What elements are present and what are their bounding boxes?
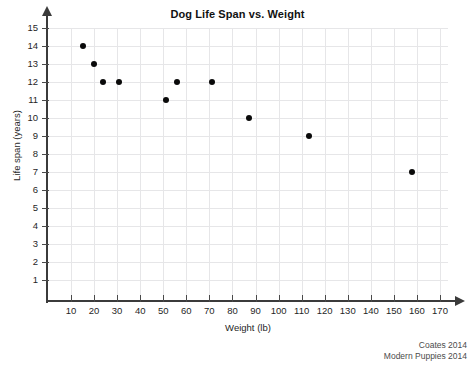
y-tick-mark	[42, 64, 49, 65]
y-tick-mark	[42, 172, 49, 173]
credit-line-2: Modern Puppies 2014	[384, 351, 467, 362]
chart-title: Dog Life Span vs. Weight	[0, 8, 475, 20]
data-point	[209, 79, 215, 85]
gridline-horizontal	[48, 136, 448, 137]
gridline-horizontal	[48, 154, 448, 155]
y-tick-mark	[42, 118, 49, 119]
gridline-vertical	[394, 28, 395, 301]
y-axis-arrow-icon	[42, 6, 52, 16]
x-tick-mark	[394, 295, 395, 302]
x-tick-label: 170	[425, 305, 455, 316]
data-point	[246, 115, 252, 121]
gridline-vertical	[279, 28, 280, 301]
gridline-horizontal	[48, 280, 448, 281]
x-tick-mark	[232, 295, 233, 302]
gridline-vertical	[325, 28, 326, 301]
y-tick-label: 15	[14, 22, 38, 33]
gridline-vertical	[371, 28, 372, 301]
gridline-vertical	[94, 28, 95, 301]
x-tick-mark	[417, 295, 418, 302]
gridline-horizontal	[48, 226, 448, 227]
credits-block: Coates 2014 Modern Puppies 2014	[384, 340, 467, 362]
gridline-horizontal	[48, 64, 448, 65]
data-point	[163, 97, 169, 103]
y-tick-label: 3	[14, 238, 38, 249]
y-tick-label: 14	[14, 40, 38, 51]
gridline-vertical	[232, 28, 233, 301]
x-tick-mark	[302, 295, 303, 302]
x-tick-mark	[279, 295, 280, 302]
y-tick-mark	[42, 280, 49, 281]
x-tick-mark	[186, 295, 187, 302]
clipped-header-remnant: · · ·· · ·	[104, 0, 384, 4]
x-axis-line	[46, 300, 457, 302]
y-tick-mark	[42, 154, 49, 155]
plot-area	[48, 28, 448, 301]
gridline-horizontal	[48, 28, 448, 29]
y-tick-mark	[42, 46, 49, 47]
gridline-vertical	[256, 28, 257, 301]
y-tick-mark	[42, 190, 49, 191]
x-tick-mark	[371, 295, 372, 302]
gridline-horizontal	[48, 208, 448, 209]
y-tick-mark	[42, 28, 49, 29]
x-tick-mark	[325, 295, 326, 302]
x-tick-mark	[440, 295, 441, 302]
y-tick-label: 13	[14, 58, 38, 69]
x-axis-title: Weight (lb)	[48, 322, 448, 333]
x-tick-mark	[256, 295, 257, 302]
gridline-vertical	[209, 28, 210, 301]
x-tick-mark	[94, 295, 95, 302]
data-point	[306, 133, 312, 139]
gridline-vertical	[302, 28, 303, 301]
x-tick-mark	[140, 295, 141, 302]
x-axis-arrow-icon	[455, 296, 465, 306]
gridline-vertical	[440, 28, 441, 301]
scatter-plot-figure: · · ·· · · Dog Life Span vs. Weight 1234…	[0, 0, 475, 370]
y-axis-line	[46, 14, 48, 303]
gridline-horizontal	[48, 190, 448, 191]
gridline-vertical	[417, 28, 418, 301]
gridlines	[48, 28, 448, 301]
x-tick-mark	[71, 295, 72, 302]
gridline-horizontal	[48, 100, 448, 101]
y-tick-mark	[42, 136, 49, 137]
gridline-horizontal	[48, 172, 448, 173]
x-tick-mark	[209, 295, 210, 302]
data-point	[80, 43, 86, 49]
gridline-vertical	[71, 28, 72, 301]
gridline-vertical	[117, 28, 118, 301]
gridline-horizontal	[48, 262, 448, 263]
gridline-horizontal	[48, 244, 448, 245]
gridline-vertical	[140, 28, 141, 301]
gridline-vertical	[163, 28, 164, 301]
credit-line-1: Coates 2014	[384, 340, 467, 351]
gridline-horizontal	[48, 82, 448, 83]
y-tick-mark	[42, 226, 49, 227]
y-tick-mark	[42, 244, 49, 245]
x-tick-mark	[117, 295, 118, 302]
y-tick-label: 2	[14, 256, 38, 267]
y-tick-label: 4	[14, 220, 38, 231]
gridline-horizontal	[48, 46, 448, 47]
y-axis-title: Life span (years)	[11, 86, 22, 206]
y-tick-label: 1	[14, 274, 38, 285]
x-tick-mark	[163, 295, 164, 302]
gridline-vertical	[186, 28, 187, 301]
x-tick-mark	[348, 295, 349, 302]
y-tick-mark	[42, 100, 49, 101]
y-tick-mark	[42, 262, 49, 263]
gridline-vertical	[348, 28, 349, 301]
y-tick-mark	[42, 82, 49, 83]
y-tick-mark	[42, 208, 49, 209]
